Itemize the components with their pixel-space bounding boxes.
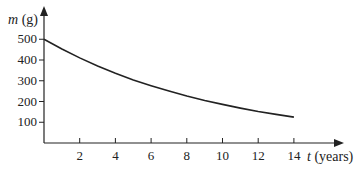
x-axis-title: t (years) bbox=[307, 149, 354, 165]
x-axis-unit: (years) bbox=[314, 149, 353, 165]
y-tick-label: 400 bbox=[18, 52, 38, 67]
x-tick-label: 2 bbox=[76, 148, 83, 163]
y-tick-label: 100 bbox=[18, 114, 38, 129]
y-tick-label: 200 bbox=[18, 94, 38, 109]
x-axis-var: t bbox=[307, 149, 312, 164]
y-axis-arrow-icon bbox=[40, 6, 48, 16]
x-tick-label: 14 bbox=[287, 148, 301, 163]
y-axis-title: m (g) bbox=[8, 12, 38, 28]
x-axis-arrow-icon bbox=[334, 139, 344, 147]
y-tick-label: 300 bbox=[18, 73, 38, 88]
x-tick-label: 12 bbox=[252, 148, 265, 163]
svg-text:m (g): m (g) bbox=[8, 12, 38, 28]
y-axis-unit: (g) bbox=[22, 12, 39, 28]
x-tick-label: 4 bbox=[112, 148, 119, 163]
x-ticks: 2468101214 bbox=[76, 138, 300, 163]
y-axis-var: m bbox=[8, 12, 18, 27]
decay-chart: m (g) t (years) 100200300400500 24681012… bbox=[0, 0, 356, 171]
x-tick-label: 6 bbox=[148, 148, 155, 163]
svg-text:t (years): t (years) bbox=[307, 149, 354, 165]
decay-curve bbox=[44, 39, 294, 117]
x-tick-label: 10 bbox=[216, 148, 229, 163]
y-ticks: 100200300400500 bbox=[18, 31, 45, 129]
y-tick-label: 500 bbox=[18, 31, 38, 46]
x-tick-label: 8 bbox=[184, 148, 191, 163]
